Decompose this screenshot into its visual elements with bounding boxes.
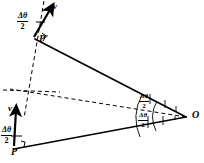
radius-o-to-p-prime <box>35 39 186 117</box>
angle-label-top-delta-theta-over-2: Δθ 2 <box>17 12 28 31</box>
angle-label-bottom-delta-theta-over-2: Δθ 2 <box>1 126 12 145</box>
velocity-vector-bottom <box>14 110 16 146</box>
angle-arc-inner <box>153 101 157 131</box>
geometry-diagram: P' P O v v Δθ 2 Δθ 2 Δθ 2 Δθ 2 <box>0 0 204 163</box>
angle-label-lower-at-o: Δθ 2 <box>138 112 148 129</box>
dashed-horizontal-line <box>3 90 60 92</box>
velocity-label-bottom: v <box>8 104 12 113</box>
angle-label-upper-at-o: Δθ 2 <box>139 93 149 110</box>
angle-label-lower-denominator: 2 <box>140 121 146 129</box>
point-label-p: P <box>11 147 17 157</box>
angle-label-bottom-denominator: 2 <box>4 136 10 145</box>
angle-label-top-denominator: 2 <box>20 22 26 31</box>
radius-o-to-p <box>14 117 186 149</box>
angle-label-top-numerator: Δθ <box>17 12 28 21</box>
angle-label-upper-denominator: 2 <box>141 102 147 110</box>
angle-label-lower-numerator: Δθ <box>138 112 148 120</box>
velocity-label-top: v <box>53 2 57 11</box>
right-angle-mark-p <box>21 141 25 147</box>
angle-label-upper-numerator: Δθ <box>139 93 149 101</box>
angle-label-bottom-numerator: Δθ <box>1 126 12 135</box>
point-label-o: O <box>192 110 199 120</box>
point-label-p-prime: P' <box>39 34 48 44</box>
diagram-canvas <box>0 0 204 163</box>
